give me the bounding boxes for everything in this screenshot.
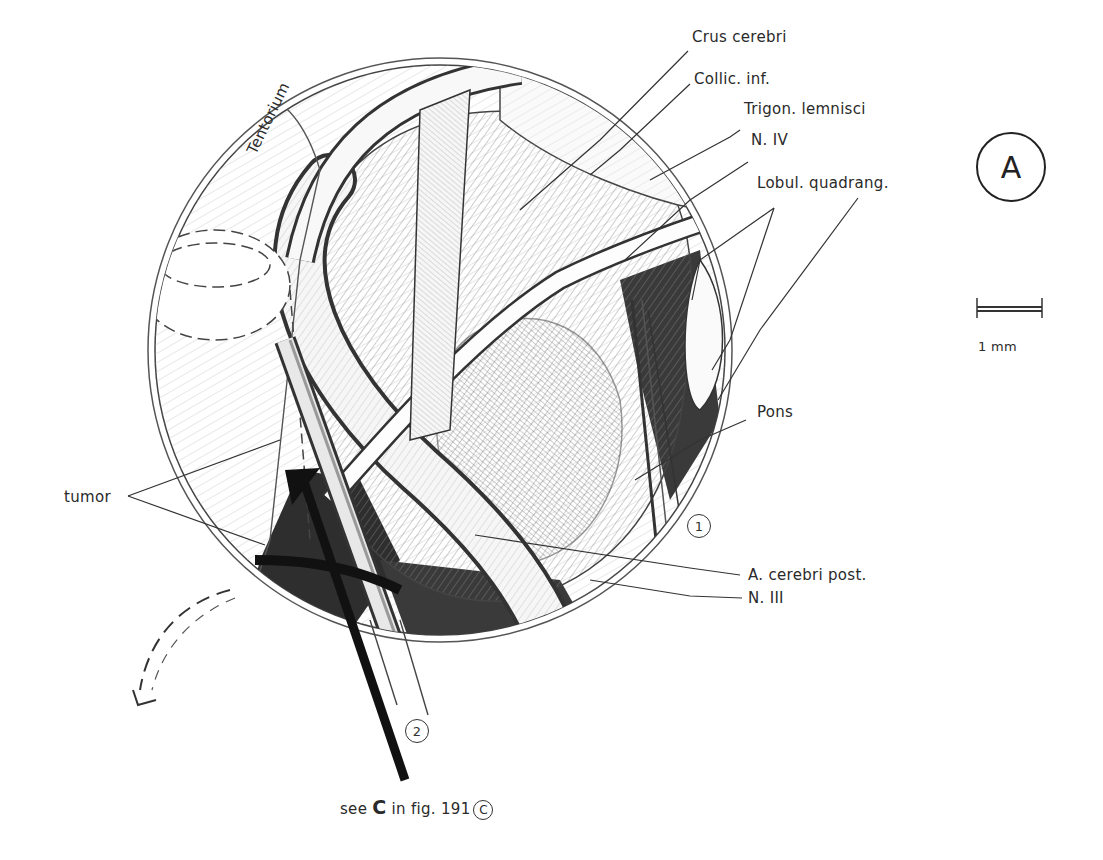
instrument-marker-1: 1 xyxy=(687,514,711,538)
instrument-marker-2: 2 xyxy=(405,719,429,743)
label-trigon-lemnisci: Trigon. lemnisci xyxy=(744,102,866,117)
scale-bar-label: 1 mm xyxy=(978,340,1017,353)
dashed-retraction-arrow xyxy=(133,590,235,705)
label-n-iii: N. III xyxy=(748,591,784,606)
caption-circled-letter: C xyxy=(473,800,493,820)
anatomy-figure: Crus cerebri Collic. inf. Trigon. lemnis… xyxy=(0,0,1103,860)
label-tumor: tumor xyxy=(64,490,111,505)
caption-figure-number: 191 xyxy=(441,800,471,818)
figure-caption: see C in fig. 191C xyxy=(340,798,493,820)
field-content xyxy=(140,50,760,690)
label-collic-inf: Collic. inf. xyxy=(694,72,770,87)
illustration-drawing xyxy=(0,0,1103,860)
label-pons: Pons xyxy=(757,405,793,420)
label-lobul-quadrang: Lobul. quadrang. xyxy=(757,176,889,191)
label-crus-cerebri: Crus cerebri xyxy=(692,30,787,45)
label-a-cerebri-post: A. cerebri post. xyxy=(748,568,867,583)
scale-bar xyxy=(977,298,1042,318)
caption-middle: in fig. xyxy=(392,800,436,818)
caption-bold-letter: C xyxy=(372,796,386,818)
panel-letter-badge: A xyxy=(976,132,1046,202)
caption-prefix: see xyxy=(340,800,367,818)
label-n-iv: N. IV xyxy=(751,133,788,148)
